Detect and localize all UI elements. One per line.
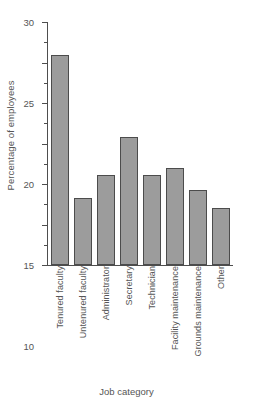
- bar-series: [48, 22, 233, 265]
- bar: [166, 168, 184, 265]
- y-tick-major: 5: [42, 225, 47, 226]
- x-tick-label-text: Untenured faculty: [78, 266, 88, 338]
- y-tick-label: 25: [23, 98, 34, 109]
- y-tick-major: 30: [42, 22, 47, 23]
- y-tick-minor: [44, 204, 47, 205]
- x-tick-label-text: Grounds maintenance: [193, 266, 203, 356]
- y-tick-minor: [44, 245, 47, 246]
- y-tick-major: 20: [42, 103, 47, 104]
- x-tick-label-text: Facility maintenance: [170, 266, 180, 350]
- y-tick-minor: [44, 164, 47, 165]
- y-tick-label: 10: [23, 341, 34, 352]
- x-axis-tick-labels: Tenured facultyUntenured facultyAdminist…: [48, 266, 233, 376]
- bar: [212, 208, 230, 266]
- y-axis-title-text: Percentage of employees: [5, 80, 16, 190]
- y-tick-minor: [44, 123, 47, 124]
- bar: [97, 175, 115, 265]
- x-tick-label-text: Administrator: [101, 266, 111, 320]
- y-tick-label: 30: [23, 17, 34, 28]
- plot-area: 051015202530: [47, 22, 233, 265]
- bar: [74, 198, 92, 265]
- x-tick-label-text: Tenured faculty: [55, 266, 65, 329]
- y-tick-minor: [44, 83, 47, 84]
- bar: [143, 175, 161, 265]
- bar: [51, 55, 69, 265]
- x-axis-title: Job category: [0, 386, 253, 397]
- y-tick-major: 25: [42, 63, 47, 64]
- bar: [189, 190, 207, 265]
- y-tick-major: 15: [42, 144, 47, 145]
- bar: [120, 137, 138, 265]
- x-tick-label-text: Secretary: [124, 266, 134, 305]
- bar-chart-figure: Percentage of employees 051015202530 Ten…: [0, 0, 253, 416]
- y-tick-major: 0: [42, 265, 47, 266]
- y-tick-major: 10: [42, 184, 47, 185]
- y-tick-minor: [44, 42, 47, 43]
- y-tick-label: 15: [23, 260, 34, 271]
- y-tick-label: 20: [23, 179, 34, 190]
- x-tick-label-text: Technician: [147, 266, 157, 310]
- y-axis-title: Percentage of employees: [0, 0, 20, 270]
- x-tick-label-text: Other: [216, 266, 226, 289]
